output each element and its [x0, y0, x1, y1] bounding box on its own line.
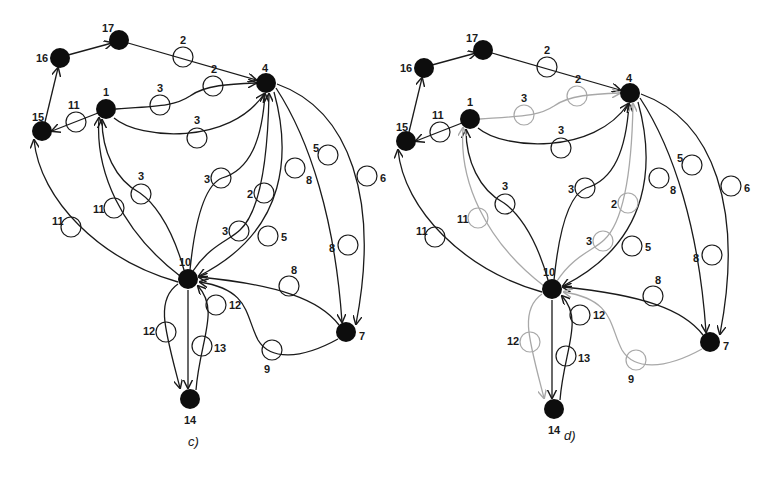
weight-ring	[575, 178, 595, 198]
weight-label: 3	[194, 114, 200, 126]
weight-ring	[622, 236, 642, 256]
edge-1-4-upper-inactive	[480, 93, 620, 119]
weight-ring	[285, 158, 305, 178]
weight-ring-inactive	[520, 332, 540, 352]
weight-ring	[430, 122, 450, 142]
node-label: 16	[400, 62, 412, 74]
node-15	[396, 131, 416, 151]
weight-label: 2	[544, 44, 550, 56]
weight-ring	[425, 227, 445, 247]
weight-ring	[262, 340, 282, 360]
weight-label: 3	[558, 124, 564, 136]
weight-ring	[258, 226, 278, 246]
edge-1-4-lower	[478, 104, 628, 144]
weight-label: 12	[507, 335, 519, 347]
weight-label: 12	[143, 325, 155, 337]
node-1	[460, 109, 480, 129]
node-7	[336, 322, 356, 342]
weight-label: 11	[93, 203, 105, 215]
weight-ring-inactive	[514, 105, 534, 125]
weight-label: 5	[677, 152, 683, 164]
weight-ring	[187, 128, 207, 148]
weight-label: 3	[502, 180, 508, 192]
weight-label: 3	[157, 82, 163, 94]
weight-label: 3	[204, 173, 210, 185]
weight-label: 8	[693, 252, 699, 264]
weight-label: 11	[432, 109, 444, 121]
node-15	[32, 121, 52, 141]
weight-label: 2	[247, 188, 253, 200]
node-label: 14	[548, 424, 561, 436]
node-label: 4	[626, 72, 633, 84]
panel-d: 16 17 15 1 4 10 7 14 2 2 3 3 11 11 11 3 …	[396, 32, 750, 443]
weight-ring	[192, 336, 212, 356]
panel-c: 16 17 15 1 4 10 7 14 2 2 3 3 11 11 11 3 …	[32, 22, 386, 449]
node-16	[414, 58, 434, 78]
node-4	[256, 73, 276, 93]
node-label: 10	[179, 256, 191, 268]
node-4	[620, 83, 640, 103]
weight-ring-inactive	[593, 231, 613, 251]
weight-label: 2	[575, 73, 581, 85]
panel-caption: d)	[564, 428, 576, 443]
node-1	[96, 99, 116, 119]
weight-label: 12	[593, 309, 605, 321]
weight-label: 3	[222, 225, 228, 237]
weight-label: 2	[180, 34, 186, 46]
weight-ring	[570, 305, 590, 325]
weight-label: 5	[645, 241, 651, 253]
node-label: 7	[359, 330, 365, 342]
node-14	[544, 399, 564, 419]
weight-ring-inactive	[567, 86, 587, 106]
weight-ring	[279, 276, 299, 296]
node-label: 15	[32, 111, 44, 123]
node-label: 4	[262, 62, 269, 74]
weight-label: 6	[744, 182, 750, 194]
weight-label: 3	[138, 170, 144, 182]
weight-ring	[211, 168, 231, 188]
weight-label: 12	[229, 299, 241, 311]
weight-label: 5	[281, 231, 287, 243]
edge-1-4-upper	[116, 83, 256, 109]
weight-ring	[357, 166, 377, 186]
weight-ring	[206, 295, 226, 315]
weight-label: 5	[313, 142, 319, 154]
weight-ring-inactive	[468, 208, 488, 228]
weight-ring	[254, 183, 274, 203]
node-label: 10	[543, 266, 555, 278]
node-label: 16	[36, 52, 48, 64]
node-16	[50, 48, 70, 68]
node-10	[178, 269, 198, 289]
weight-ring	[338, 235, 358, 255]
edge-15-16	[45, 68, 58, 122]
weight-ring	[203, 76, 223, 96]
weight-ring	[643, 286, 663, 306]
weight-ring	[556, 346, 576, 366]
weight-ring	[702, 245, 722, 265]
weight-ring	[150, 95, 170, 115]
weight-label: 9	[264, 363, 270, 375]
weight-label: 3	[586, 235, 592, 247]
node-label: 7	[723, 340, 729, 352]
node-label: 14	[184, 414, 197, 426]
node-label: 17	[102, 22, 114, 34]
weight-ring	[495, 194, 515, 214]
node-label: 17	[466, 32, 478, 44]
weight-ring	[649, 168, 669, 188]
weight-ring	[156, 322, 176, 342]
weight-ring	[173, 47, 193, 67]
node-10	[542, 279, 562, 299]
weight-ring	[131, 184, 151, 204]
weight-label: 6	[380, 172, 386, 184]
weight-label: 11	[416, 225, 428, 237]
weight-ring-inactive	[618, 193, 638, 213]
weight-ring	[66, 112, 86, 132]
weight-label: 13	[214, 342, 226, 354]
edge-16-17	[68, 43, 112, 55]
weight-ring	[721, 176, 741, 196]
weight-label: 13	[578, 352, 590, 364]
weight-label: 8	[655, 274, 661, 286]
weight-label: 2	[211, 63, 217, 75]
weight-label: 8	[306, 174, 312, 186]
edge-16-17	[432, 53, 476, 65]
